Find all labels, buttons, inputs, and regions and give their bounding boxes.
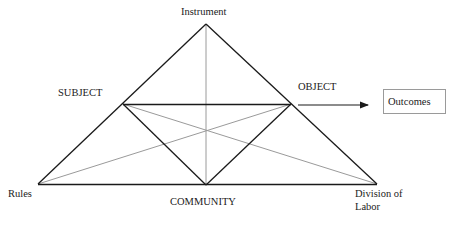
subject-division-line: [123, 104, 377, 184]
object-community-edge: [206, 104, 291, 185]
instrument-label: Instrument: [181, 6, 227, 18]
outcomes-label: Outcomes: [388, 96, 431, 107]
community-label: COMMUNITY: [170, 196, 236, 208]
outcomes-box: Outcomes: [383, 89, 446, 114]
object-label: OBJECT: [298, 81, 337, 93]
rules-label: Rules: [8, 188, 32, 200]
division-of-labor-label-line1: Division of: [355, 188, 403, 200]
subject-community-edge: [123, 104, 206, 185]
subject-label: SUBJECT: [58, 87, 102, 99]
division-of-labor-label-line2: Labor: [355, 201, 380, 213]
